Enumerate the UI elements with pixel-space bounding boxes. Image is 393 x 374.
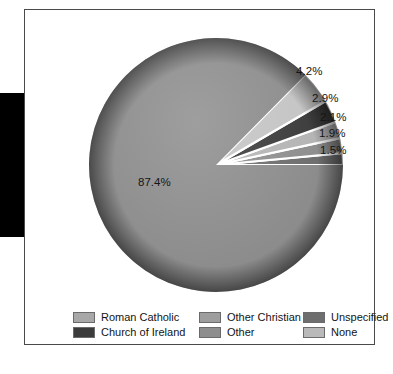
legend-label-church-of-ireland: Church of Ireland [101,327,185,338]
legend-swatch-none [303,327,325,338]
legend-swatch-other [199,327,221,338]
legend-swatch-roman-catholic [73,312,95,323]
legend-label-roman-catholic: Roman Catholic [101,312,179,323]
slice-label-other: 1.9% [319,127,346,139]
legend-label-other: Other [227,327,255,338]
chart-frame: 4.2% 2.9% 2.1% 1.9% 1.5% 87.4% Roman Cat… [24,9,375,345]
legend-label-none: None [331,327,357,338]
slice-label-none: 4.2% [296,65,323,77]
slice-label-other-christian: 2.1% [320,111,347,123]
legend-item-other-christian[interactable]: Other Christian [199,311,301,323]
legend-item-none[interactable]: None [303,326,357,338]
slice-label-roman-catholic: 87.4% [138,176,171,188]
legend-item-roman-catholic[interactable]: Roman Catholic [73,311,179,323]
chart-legend: Roman Catholic Church of Ireland Other C… [73,310,385,340]
legend-label-unspecified: Unspecified [331,312,388,323]
legend-item-unspecified[interactable]: Unspecified [303,311,388,323]
slice-label-church-of-ireland: 2.9% [312,92,339,104]
legend-swatch-other-christian [199,312,221,323]
slice-label-unspecified: 1.5% [320,144,347,156]
legend-swatch-church-of-ireland [73,327,95,338]
legend-label-other-christian: Other Christian [227,312,301,323]
chart-screenshot: 4.2% 2.9% 2.1% 1.9% 1.5% 87.4% Roman Cat… [0,0,393,374]
legend-item-other[interactable]: Other [199,326,255,338]
legend-item-church-of-ireland[interactable]: Church of Ireland [73,326,185,338]
legend-swatch-unspecified [303,312,325,323]
left-black-bar [0,93,25,237]
